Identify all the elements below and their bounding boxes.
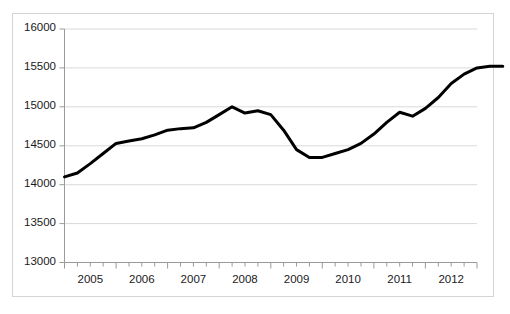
x-axis-tick-label: 2007 bbox=[171, 273, 215, 285]
x-axis-tick-label: 2012 bbox=[429, 273, 473, 285]
x-axis-tick-label: 2011 bbox=[378, 273, 422, 285]
x-axis-tick-label: 2010 bbox=[326, 273, 370, 285]
y-axis-tick-label: 13500 bbox=[8, 216, 56, 228]
y-axis-tick-label: 15000 bbox=[8, 99, 56, 111]
y-axis-tick-label: 16000 bbox=[8, 21, 56, 33]
y-axis-tick-label: 15500 bbox=[8, 60, 56, 72]
x-axis-tick-label: 2005 bbox=[68, 273, 112, 285]
x-axis-tick-label: 2008 bbox=[223, 273, 267, 285]
y-axis-tick-label: 14000 bbox=[8, 177, 56, 189]
x-axis-tick-label: 2009 bbox=[275, 273, 319, 285]
x-axis-tick-label: 2006 bbox=[120, 273, 164, 285]
chart-frame bbox=[12, 13, 494, 297]
y-axis-tick-label: 14500 bbox=[8, 138, 56, 150]
y-axis-tick-label: 13000 bbox=[8, 255, 56, 267]
